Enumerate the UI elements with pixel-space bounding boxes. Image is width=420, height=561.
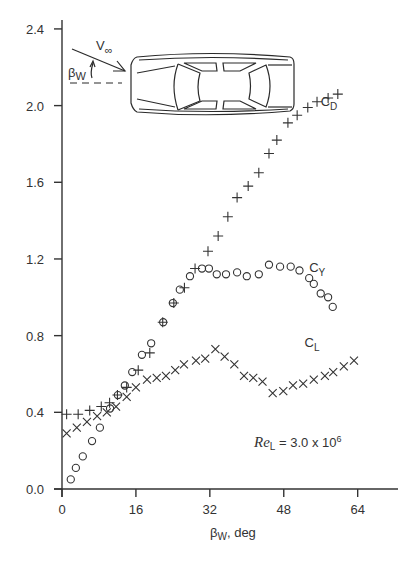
cross-marker-icon [162, 372, 170, 380]
y-tick-label: 1.2 [26, 252, 44, 267]
cross-marker-icon [211, 345, 219, 353]
cross-marker-icon [83, 418, 91, 426]
plus-marker-icon [292, 110, 302, 120]
rear-window [249, 65, 270, 107]
cross-marker-icon [171, 366, 179, 374]
circle-marker-icon [243, 273, 250, 280]
windshield-front [174, 64, 178, 110]
y-tick-label: 0.8 [26, 329, 44, 344]
circle-marker-icon [67, 476, 74, 483]
circle-marker-icon [176, 286, 183, 293]
series-labels: CDCYCL [305, 94, 338, 354]
beta-w-label: βW [68, 65, 86, 82]
y-tick-label: 2.0 [26, 99, 44, 114]
circle-marker-icon [329, 303, 336, 310]
cross-marker-icon [221, 353, 229, 361]
y-tick-label: 2.4 [26, 22, 44, 37]
cross-marker-icon [269, 389, 277, 397]
series-CL [63, 345, 358, 437]
cross-marker-icon [299, 380, 307, 388]
plus-marker-icon [213, 231, 223, 241]
plus-marker-icon [85, 405, 95, 415]
plus-marker-icon [223, 212, 233, 222]
circle-marker-icon [79, 453, 86, 460]
cross-marker-icon [63, 429, 71, 437]
data-markers [62, 89, 358, 483]
car-side-line-top [139, 58, 288, 61]
y-tick-label: 0.4 [26, 405, 44, 420]
cross-marker-icon [93, 412, 101, 420]
x-axis-label: βW, deg [210, 525, 256, 542]
circle-marker-icon [205, 265, 212, 272]
side-window-front-top [184, 63, 217, 71]
circle-marker-icon [317, 290, 324, 297]
circle-marker-icon [138, 351, 145, 358]
cross-marker-icon [340, 362, 348, 370]
x-tick-label: 0 [58, 502, 65, 517]
cross-marker-icon [73, 424, 81, 432]
chart-canvas: 0163248640.00.40.81.21.62.02.4 V∞ βW CDC… [0, 0, 420, 561]
circle-marker-icon [233, 269, 240, 276]
plus-marker-icon [179, 283, 189, 293]
circle-marker-icon [310, 280, 317, 287]
cross-marker-icon [321, 372, 329, 380]
cross-marker-icon [279, 387, 287, 395]
cross-marker-icon [259, 378, 267, 386]
cross-marker-icon [350, 357, 358, 365]
cross-marker-icon [192, 357, 200, 365]
cross-marker-icon [201, 355, 209, 363]
circle-marker-icon [222, 271, 229, 278]
axes [54, 20, 398, 497]
plus-marker-icon [122, 382, 132, 392]
circle-marker-icon [148, 340, 155, 347]
cross-marker-icon [249, 374, 257, 382]
circle-marker-icon [213, 271, 220, 278]
x-tick-label: 64 [350, 502, 364, 517]
series-CD [62, 89, 343, 419]
cross-marker-icon [289, 381, 297, 389]
cross-marker-icon [143, 376, 151, 384]
circle-marker-icon [186, 273, 193, 280]
circle-marker-icon [129, 368, 136, 375]
circle-marker-icon [287, 263, 294, 270]
car-yaw-inset: V∞ βW [68, 38, 294, 115]
circle-marker-icon [72, 464, 79, 471]
cross-marker-icon [240, 372, 248, 380]
circle-marker-icon [88, 437, 95, 444]
plus-marker-icon [272, 135, 282, 145]
circle-marker-icon [96, 424, 103, 431]
circle-marker-icon [121, 382, 128, 389]
plus-marker-icon [303, 103, 313, 113]
plus-marker-icon [232, 193, 242, 203]
series-label-CL: CL [305, 335, 320, 353]
plus-marker-icon [73, 409, 83, 419]
y-tick-label: 1.6 [26, 175, 44, 190]
v-infinity-label: V∞ [96, 38, 113, 56]
plus-marker-icon [333, 89, 343, 99]
cross-marker-icon [230, 360, 238, 368]
circle-marker-icon [325, 294, 332, 301]
velocity-arrowhead-icon [113, 61, 125, 71]
plus-marker-icon [243, 181, 253, 191]
hood-line-bottom [137, 99, 175, 107]
cross-marker-icon [132, 383, 140, 391]
cross-marker-icon [123, 393, 131, 401]
cross-marker-icon [180, 360, 188, 368]
side-window-rear-top [223, 63, 256, 71]
plus-marker-icon [254, 168, 264, 178]
plus-marker-icon [264, 149, 274, 159]
hood-line-top [137, 66, 175, 73]
plus-marker-icon [203, 246, 213, 256]
circle-marker-icon [296, 267, 303, 274]
series-label-CD: CD [321, 94, 338, 112]
plus-marker-icon [145, 348, 155, 358]
plus-marker-icon [62, 409, 72, 419]
reynolds-annotation: ReL = 3.0 x 106 [253, 434, 341, 452]
side-window-rear-bottom [223, 101, 256, 109]
circle-marker-icon [265, 261, 272, 268]
cross-marker-icon [153, 374, 161, 382]
x-tick-label: 48 [277, 502, 291, 517]
circle-marker-icon [276, 263, 283, 270]
plus-marker-icon [283, 118, 293, 128]
circle-marker-icon [255, 271, 262, 278]
